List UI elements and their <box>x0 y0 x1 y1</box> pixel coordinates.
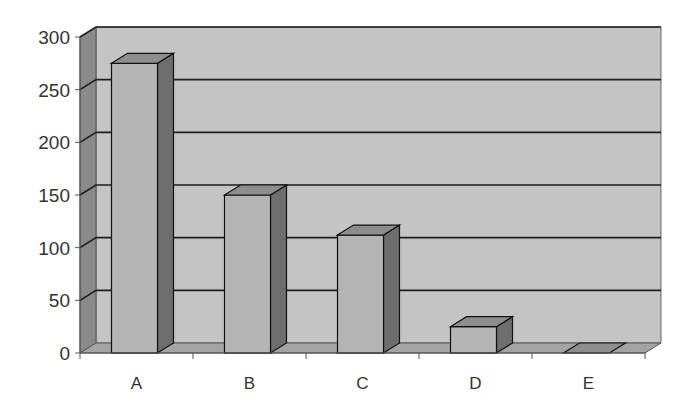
bar-b <box>225 185 287 353</box>
y-tick-label: 150 <box>38 185 70 206</box>
y-axis-labels: 050100150200250300 <box>38 27 70 364</box>
x-axis-labels: ABCDE <box>131 374 594 393</box>
y-tick-label: 0 <box>59 343 70 364</box>
x-category-label: B <box>244 374 255 393</box>
bar-a <box>112 53 174 353</box>
x-category-label: E <box>583 374 594 393</box>
bar-d <box>451 317 513 353</box>
y-tick-label: 50 <box>49 290 70 311</box>
y-tick-label: 250 <box>38 80 70 101</box>
y-tick-label: 300 <box>38 27 70 48</box>
x-category-label: C <box>356 374 368 393</box>
bar-chart: 050100150200250300 ABCDE <box>0 0 689 412</box>
y-tick-label: 100 <box>38 238 70 259</box>
x-category-label: A <box>131 374 143 393</box>
bar-c <box>338 225 400 353</box>
x-category-label: D <box>469 374 481 393</box>
y-tick-label: 200 <box>38 132 70 153</box>
